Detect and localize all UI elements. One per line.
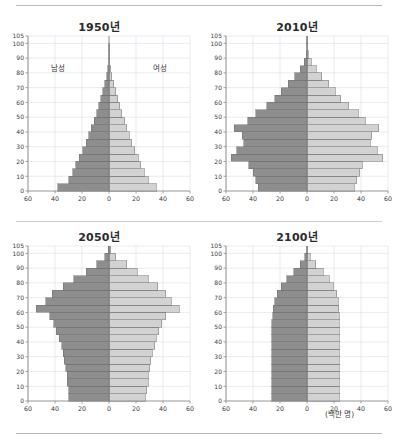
svg-text:0: 0 [305, 195, 309, 202]
pyramid-svg: 01020304050607080901001056040200204060 [198, 216, 396, 428]
legend-male-label: 남성 [51, 64, 65, 73]
x-axis-unit-label: (백만 명) [325, 408, 354, 419]
svg-text:40: 40 [357, 405, 365, 412]
svg-text:30: 30 [214, 143, 222, 150]
bottom-divider [16, 433, 382, 434]
svg-text:60: 60 [222, 195, 230, 202]
svg-text:0: 0 [20, 187, 24, 194]
svg-text:0: 0 [218, 187, 222, 194]
svg-text:70: 70 [214, 84, 222, 91]
panel-2050: 2050년 0102030405060708090100105604020020… [0, 216, 198, 428]
svg-text:60: 60 [214, 99, 222, 106]
svg-text:0: 0 [20, 397, 24, 404]
svg-text:30: 30 [214, 353, 222, 360]
pyramid-plot-1950: 01020304050607080901001056040200204060남성… [0, 6, 198, 218]
pyramid-plot-2010: 01020304050607080901001056040200204060 [198, 6, 396, 218]
svg-text:60: 60 [16, 309, 24, 316]
svg-text:70: 70 [16, 84, 24, 91]
svg-text:60: 60 [24, 405, 32, 412]
pyramid-plot-2100: 01020304050607080901001056040200204060 [198, 216, 396, 428]
svg-text:20: 20 [276, 195, 284, 202]
svg-text:50: 50 [16, 323, 24, 330]
svg-text:60: 60 [384, 195, 392, 202]
svg-text:60: 60 [222, 405, 230, 412]
svg-text:40: 40 [249, 195, 257, 202]
svg-text:50: 50 [16, 113, 24, 120]
svg-text:20: 20 [132, 405, 140, 412]
svg-text:40: 40 [16, 128, 24, 135]
svg-text:80: 80 [214, 69, 222, 76]
svg-text:40: 40 [51, 405, 59, 412]
svg-text:70: 70 [214, 294, 222, 301]
svg-text:100: 100 [13, 40, 25, 47]
svg-text:0: 0 [107, 405, 111, 412]
svg-text:30: 30 [16, 143, 24, 150]
pyramid-svg: 01020304050607080901001056040200204060남성… [0, 6, 198, 218]
svg-text:40: 40 [51, 195, 59, 202]
svg-text:20: 20 [132, 195, 140, 202]
svg-text:40: 40 [214, 338, 222, 345]
svg-text:105: 105 [211, 242, 223, 249]
svg-text:105: 105 [211, 32, 223, 39]
svg-text:10: 10 [214, 173, 222, 180]
svg-text:20: 20 [78, 195, 86, 202]
legend-female-label: 여성 [153, 63, 167, 73]
svg-text:20: 20 [214, 368, 222, 375]
svg-text:10: 10 [16, 173, 24, 180]
pyramid-svg: 01020304050607080901001056040200204060 [198, 6, 396, 218]
svg-text:40: 40 [214, 128, 222, 135]
svg-text:20: 20 [276, 405, 284, 412]
svg-text:20: 20 [214, 158, 222, 165]
svg-text:10: 10 [16, 383, 24, 390]
svg-text:60: 60 [214, 309, 222, 316]
svg-text:20: 20 [16, 368, 24, 375]
panel-1950: 1950년 0102030405060708090100105604020020… [0, 6, 198, 218]
svg-text:60: 60 [384, 405, 392, 412]
svg-text:40: 40 [159, 405, 167, 412]
svg-text:30: 30 [16, 353, 24, 360]
svg-text:100: 100 [211, 40, 223, 47]
svg-text:90: 90 [214, 54, 222, 61]
svg-text:60: 60 [16, 99, 24, 106]
svg-text:0: 0 [218, 397, 222, 404]
svg-text:70: 70 [16, 294, 24, 301]
pyramid-svg: 01020304050607080901001056040200204060 [0, 216, 198, 428]
svg-text:10: 10 [214, 383, 222, 390]
svg-text:100: 100 [211, 250, 223, 257]
svg-text:50: 50 [214, 113, 222, 120]
svg-text:20: 20 [16, 158, 24, 165]
svg-text:0: 0 [305, 405, 309, 412]
svg-text:80: 80 [214, 279, 222, 286]
svg-text:80: 80 [16, 279, 24, 286]
svg-text:0: 0 [107, 195, 111, 202]
svg-text:90: 90 [16, 54, 24, 61]
svg-text:60: 60 [186, 405, 194, 412]
svg-text:40: 40 [159, 195, 167, 202]
svg-text:100: 100 [13, 250, 25, 257]
svg-text:40: 40 [16, 338, 24, 345]
svg-text:20: 20 [330, 195, 338, 202]
svg-text:50: 50 [214, 323, 222, 330]
svg-text:40: 40 [357, 195, 365, 202]
pyramid-plot-2050: 01020304050607080901001056040200204060 [0, 216, 198, 428]
svg-text:90: 90 [214, 264, 222, 271]
svg-text:105: 105 [13, 242, 25, 249]
svg-text:105: 105 [13, 32, 25, 39]
svg-text:60: 60 [186, 195, 194, 202]
panel-2100: 2100년 0102030405060708090100105604020020… [198, 216, 396, 428]
svg-text:90: 90 [16, 264, 24, 271]
svg-text:60: 60 [24, 195, 32, 202]
figure-container: 1950년 0102030405060708090100105604020020… [0, 0, 396, 440]
svg-text:20: 20 [78, 405, 86, 412]
svg-text:80: 80 [16, 69, 24, 76]
svg-text:40: 40 [249, 405, 257, 412]
panel-2010: 2010년 0102030405060708090100105604020020… [198, 6, 396, 218]
